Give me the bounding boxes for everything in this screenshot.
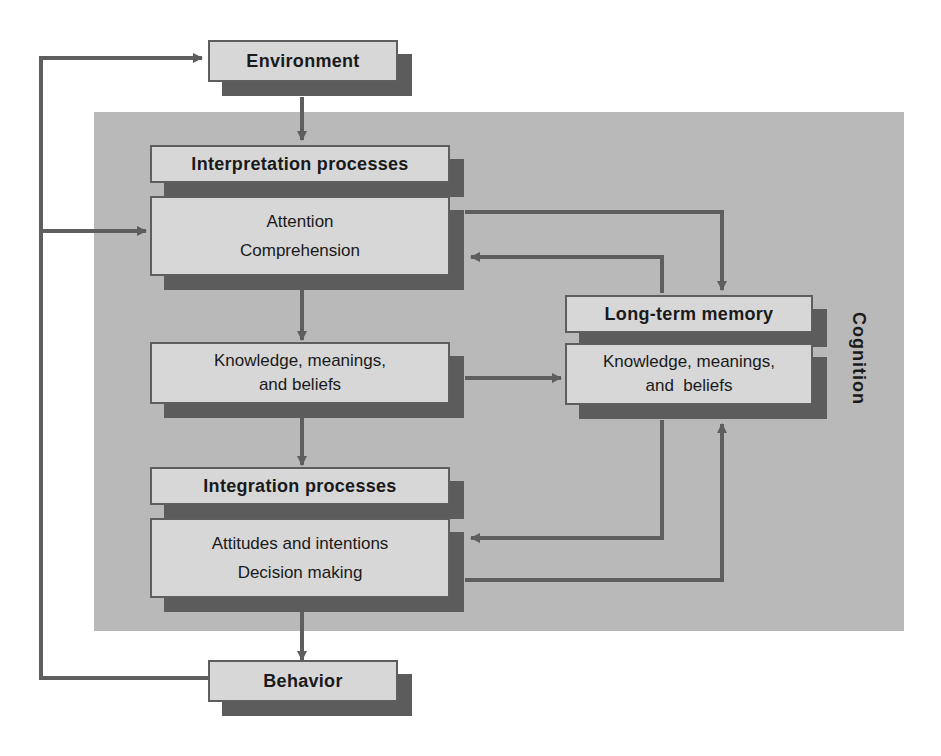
knowledge-line2: and beliefs (214, 373, 386, 397)
cognition-label: Cognition (848, 312, 869, 405)
ltm-header: Long-term memory (605, 304, 774, 325)
integration-header-box: Integration processes (150, 467, 450, 505)
behavior-box: Behavior (208, 660, 398, 702)
interpretation-body-box: Attention Comprehension (150, 196, 450, 276)
ltm-header-box: Long-term memory (565, 295, 813, 333)
knowledge-box: Knowledge, meanings, and beliefs (150, 342, 450, 404)
attention-label: Attention (240, 210, 360, 234)
interpretation-header: Interpretation processes (191, 154, 408, 175)
ltm-line1: Knowledge, meanings, (603, 350, 775, 374)
ltm-line2: and beliefs (603, 374, 775, 398)
comprehension-label: Comprehension (240, 239, 360, 263)
integration-header: Integration processes (203, 476, 396, 497)
attitudes-label: Attitudes and intentions (212, 532, 389, 556)
behavior-label: Behavior (263, 671, 342, 692)
environment-box: Environment (208, 40, 398, 82)
decision-making-label: Decision making (212, 561, 389, 585)
environment-label: Environment (246, 51, 359, 72)
knowledge-line1: Knowledge, meanings, (214, 349, 386, 373)
integration-body-box: Attitudes and intentions Decision making (150, 518, 450, 598)
interpretation-header-box: Interpretation processes (150, 145, 450, 183)
ltm-body-box: Knowledge, meanings, and beliefs (565, 343, 813, 405)
